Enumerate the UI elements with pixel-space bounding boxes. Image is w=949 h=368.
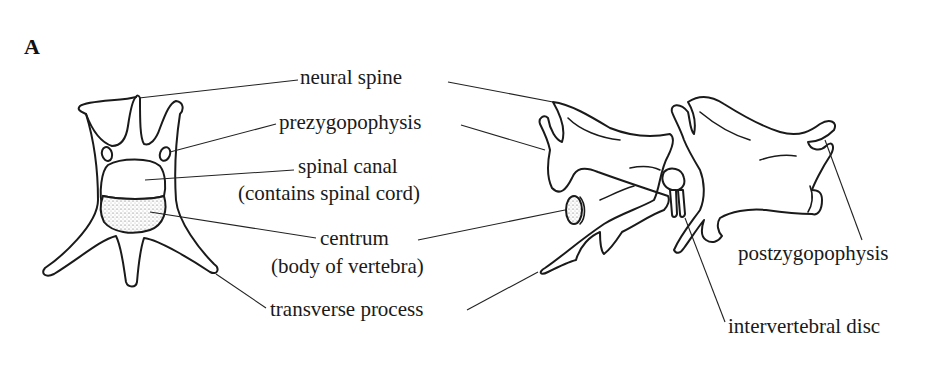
label-centrum-note: (body of vertebra) xyxy=(271,256,424,277)
label-postzygopophysis: postzygopophysis xyxy=(738,243,889,264)
diagram-drawing xyxy=(0,0,949,368)
cross-section-vertebra xyxy=(43,96,217,287)
label-intervertebral-disc: intervertebral disc xyxy=(728,316,880,337)
label-transverse-process: transverse process xyxy=(270,299,423,320)
vertebra-diagram: A xyxy=(0,0,949,368)
label-prezygopophysis: prezygopophysis xyxy=(279,112,421,133)
label-neural-spine: neural spine xyxy=(300,67,402,88)
label-spinal-canal-note: (contains spinal cord) xyxy=(238,183,420,204)
label-spinal-canal: spinal canal xyxy=(298,156,398,177)
label-centrum: centrum xyxy=(320,228,389,249)
